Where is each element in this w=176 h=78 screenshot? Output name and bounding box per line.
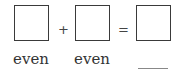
plus-sign: + — [58, 20, 69, 40]
addend-1-box[interactable] — [14, 5, 49, 41]
addend-2-box[interactable] — [75, 5, 110, 41]
addend-2-label: even — [72, 50, 112, 68]
addend-1-label: even — [11, 50, 51, 68]
sum-box[interactable] — [136, 5, 171, 41]
equals-sign: = — [118, 20, 129, 40]
sum-answer-blank[interactable] — [138, 68, 168, 69]
